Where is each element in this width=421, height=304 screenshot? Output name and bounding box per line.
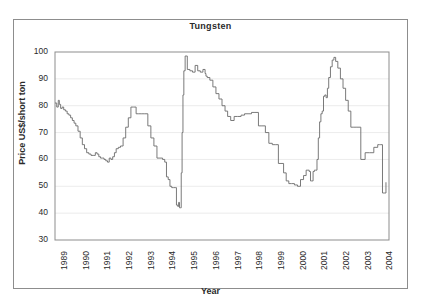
x-tick-label: 1999 xyxy=(276,251,286,270)
x-tick-label: 2003 xyxy=(363,251,373,270)
x-tick-label: 1995 xyxy=(189,251,199,270)
y-tick-label: 80 xyxy=(26,100,48,110)
x-tick-label: 1990 xyxy=(81,251,91,270)
x-tick-label: 2004 xyxy=(384,251,394,270)
x-tick-label: 1993 xyxy=(146,251,156,270)
x-tick-label: 2002 xyxy=(341,251,351,270)
y-tick-label: 90 xyxy=(26,73,48,83)
chart-figure: Tungsten Price US$/short ton Year 100908… xyxy=(0,0,421,304)
y-tick-label: 70 xyxy=(26,127,48,137)
y-tick-label: 100 xyxy=(26,46,48,56)
x-tick-label: 1992 xyxy=(124,251,134,270)
x-tick-label: 1996 xyxy=(211,251,221,270)
y-tick-label: 40 xyxy=(26,207,48,217)
y-tick-label: 30 xyxy=(26,234,48,244)
plot-area-border xyxy=(55,52,389,240)
x-tick-label: 2001 xyxy=(319,251,329,270)
x-tick-label: 1994 xyxy=(167,251,177,270)
x-tick-label: 2000 xyxy=(298,251,308,270)
x-tick-label: 1991 xyxy=(102,251,112,270)
x-tick-label: 1997 xyxy=(233,251,243,270)
x-tick-label: 1989 xyxy=(59,251,69,270)
x-tick-label: 1998 xyxy=(254,251,264,270)
y-tick-label: 50 xyxy=(26,180,48,190)
y-tick-label: 60 xyxy=(26,153,48,163)
